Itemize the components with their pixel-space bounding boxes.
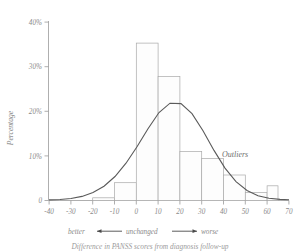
x-tick-label-m20: -20 [88,208,98,216]
x-tick-label-m40: -40 [44,208,54,216]
right-arrow-head-icon [193,229,198,233]
y-tick-label-10: 10% [29,153,42,161]
y-tick-label-20: 20% [29,108,42,116]
bar-bin-5 [180,152,202,201]
x-tick-label-70: 70 [285,208,293,216]
x-tick-label-60: 60 [264,208,272,216]
histogram-bars [93,43,278,200]
bar-bin-8 [245,193,267,201]
x-axis-ticks [49,201,289,205]
bar-bin-3 [136,43,158,200]
y-axis-title: Percentage [6,110,15,146]
x-tick-label-30: 30 [197,208,206,216]
x-tick-label-20: 20 [176,208,184,216]
left-arrow-head-icon [97,229,102,233]
x-tick-label-0: 0 [135,208,139,216]
chart-container: 0 10% 20% 30% 40% Percentage [0,0,300,251]
x-tick-label-10: 10 [155,208,163,216]
direction-label-worse: worse [201,228,219,236]
x-tick-label-m10: -10 [110,208,120,216]
bar-bin-1 [93,198,115,201]
x-tick-label-40: 40 [220,208,228,216]
y-tick-label-30: 30% [28,63,42,71]
histogram-chart: 0 10% 20% 30% 40% Percentage [0,0,300,251]
bar-bin-4 [158,77,180,201]
outliers-annotation: Outliers [222,150,248,159]
direction-descriptor: better unchanged worse [68,228,219,236]
y-tick-label-40: 40% [29,19,42,27]
x-tick-label-50: 50 [242,208,250,216]
y-tick-label-0: 0 [38,197,42,205]
chart-caption: Difference in PANSS scores from diagnosi… [70,242,228,251]
y-axis-ticks [45,22,49,200]
direction-label-unchanged: unchanged [126,228,158,236]
direction-label-better: better [68,228,85,236]
bar-bin-2 [115,183,137,201]
bar-bin-6 [202,159,224,201]
x-tick-label-m30: -30 [66,208,76,216]
